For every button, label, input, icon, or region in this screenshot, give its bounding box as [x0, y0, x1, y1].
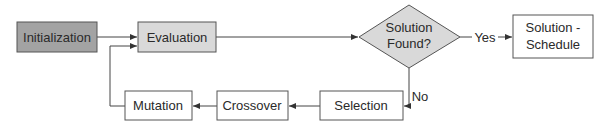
flowchart: Initialization Evaluation Solution Found… — [0, 0, 610, 132]
node-initialization: Initialization — [17, 22, 97, 52]
node-selection: Selection — [320, 91, 403, 120]
edge-decision-to-selection — [404, 68, 409, 106]
node-decision-label-line2: Found? — [387, 36, 431, 51]
node-solution-label-line2: Schedule — [526, 37, 580, 52]
edge-label-no: No — [412, 89, 429, 104]
node-solution-label-line1: Solution - — [526, 20, 581, 35]
node-crossover-label: Crossover — [222, 98, 282, 113]
node-mutation: Mutation — [125, 91, 192, 120]
node-evaluation-label: Evaluation — [147, 30, 208, 45]
node-crossover: Crossover — [217, 91, 288, 120]
node-initialization-label: Initialization — [23, 30, 91, 45]
edge-label-yes: Yes — [474, 30, 496, 45]
node-selection-label: Selection — [334, 98, 387, 113]
node-solution: Solution - Schedule — [513, 15, 593, 58]
node-evaluation: Evaluation — [138, 22, 216, 52]
node-decision-label-line1: Solution — [386, 20, 433, 35]
node-decision: Solution Found? — [359, 5, 460, 68]
node-mutation-label: Mutation — [133, 98, 183, 113]
